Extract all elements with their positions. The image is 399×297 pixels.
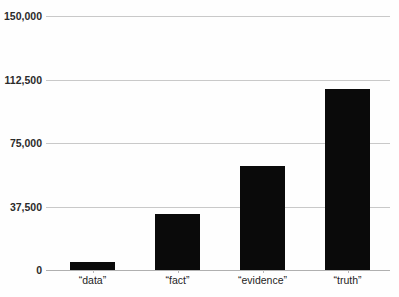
y-axis-tick-label: 75,000 xyxy=(0,137,42,149)
axis-baseline xyxy=(46,270,390,271)
bar-chart: 150,000 112,500 75,000 37,500 0 “data” “… xyxy=(0,0,399,297)
y-axis-tick-label: 150,000 xyxy=(0,10,42,22)
x-axis-label-truth: “truth” xyxy=(300,274,395,286)
bar-truth[interactable] xyxy=(325,89,370,270)
y-axis-tick-label: 37,500 xyxy=(0,201,42,213)
bar-fact[interactable] xyxy=(155,214,200,270)
bar-evidence[interactable] xyxy=(240,166,285,270)
y-axis-tick-label: 0 xyxy=(0,264,42,276)
x-axis-label-data: “data” xyxy=(45,274,140,286)
x-axis-label-fact: “fact” xyxy=(130,274,225,286)
x-axis-label-evidence: “evidence” xyxy=(215,274,310,286)
x-axis-tick xyxy=(178,270,179,273)
plot-area: “data” “fact” “evidence” “truth” xyxy=(46,16,390,270)
x-axis-tick xyxy=(93,270,94,273)
bar-data[interactable] xyxy=(70,262,115,270)
y-axis-tick-label: 112,500 xyxy=(0,74,42,86)
gridline-150000 xyxy=(46,16,390,17)
x-axis-tick xyxy=(263,270,264,273)
gridline-112500 xyxy=(46,80,390,81)
x-axis-tick xyxy=(348,270,349,273)
